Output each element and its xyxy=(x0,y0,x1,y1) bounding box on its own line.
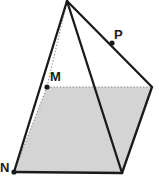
point-M-marker xyxy=(44,84,49,89)
vertex-label-n: N xyxy=(0,161,9,174)
edge-N-to-bottom-right xyxy=(14,172,122,173)
point-N-marker xyxy=(11,169,16,174)
shaded-parallelogram xyxy=(14,87,152,173)
geometry-figure: M P N xyxy=(0,0,159,180)
vertex-label-m: M xyxy=(50,70,61,83)
figure-canvas xyxy=(0,0,159,180)
vertex-label-p: P xyxy=(114,28,123,41)
